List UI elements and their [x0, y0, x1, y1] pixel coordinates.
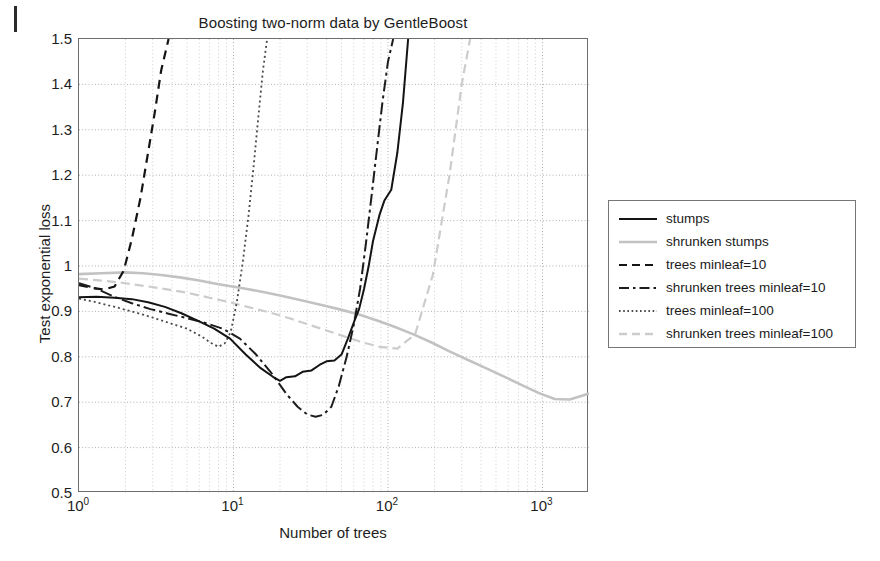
y-tick-label: 0.9 — [26, 302, 72, 319]
x-axis-label: Number of trees — [78, 524, 588, 541]
x-tick-label: 103 — [530, 496, 552, 514]
legend-line-sample — [617, 257, 659, 273]
legend-item-label: shrunken trees minleaf=100 — [666, 326, 833, 341]
figure-boosting-two-norm: Boosting two-norm data by GentleBoost Te… — [0, 0, 880, 561]
series-line — [79, 39, 267, 347]
legend-item-2[interactable]: trees minleaf=10 — [617, 253, 849, 276]
legend-line-sample — [617, 211, 659, 227]
legend-item-label: shrunken stumps — [666, 234, 769, 249]
legend-item-label: shrunken trees minleaf=10 — [666, 280, 825, 295]
plot-area — [78, 38, 588, 492]
chart-legend: stumpsshrunken stumpstrees minleaf=10shr… — [608, 200, 856, 348]
legend-item-label: trees minleaf=100 — [666, 303, 774, 318]
legend-item-label: trees minleaf=10 — [666, 257, 766, 272]
series-line — [79, 39, 393, 417]
y-tick-label: 1.2 — [26, 166, 72, 183]
legend-line-sample — [617, 326, 659, 342]
series-line — [79, 39, 408, 381]
legend-item-label: stumps — [666, 211, 710, 226]
legend-item-5[interactable]: shrunken trees minleaf=100 — [617, 322, 849, 345]
y-tick-label: 1 — [26, 257, 72, 274]
y-tick-label: 0.8 — [26, 347, 72, 364]
legend-item-3[interactable]: shrunken trees minleaf=10 — [617, 276, 849, 299]
y-tick-label: 0.5 — [26, 484, 72, 501]
x-tick-label: 100 — [67, 496, 89, 514]
y-tick-label: 0.6 — [26, 438, 72, 455]
x-tick-label: 101 — [221, 496, 243, 514]
chart-title: Boosting two-norm data by GentleBoost — [78, 14, 588, 31]
legend-line-sample — [617, 234, 659, 250]
y-tick-label: 1.1 — [26, 211, 72, 228]
series-line — [79, 39, 169, 290]
legend-item-4[interactable]: trees minleaf=100 — [617, 299, 849, 322]
series-line — [79, 39, 470, 349]
x-tick-label: 102 — [376, 496, 398, 514]
legend-item-0[interactable]: stumps — [617, 207, 849, 230]
data-series-layer — [79, 39, 589, 493]
legend-line-sample — [617, 303, 659, 319]
x-axis-tick-labels: 100101102103 — [78, 496, 588, 526]
legend-item-1[interactable]: shrunken stumps — [617, 230, 849, 253]
y-axis-tick-labels: 0.50.60.70.80.911.11.21.31.41.5 — [20, 38, 72, 492]
legend-line-sample — [617, 280, 659, 296]
y-tick-label: 0.7 — [26, 393, 72, 410]
y-tick-label: 1.5 — [26, 30, 72, 47]
y-tick-label: 1.4 — [26, 75, 72, 92]
y-tick-label: 1.3 — [26, 120, 72, 137]
series-line — [79, 272, 589, 399]
